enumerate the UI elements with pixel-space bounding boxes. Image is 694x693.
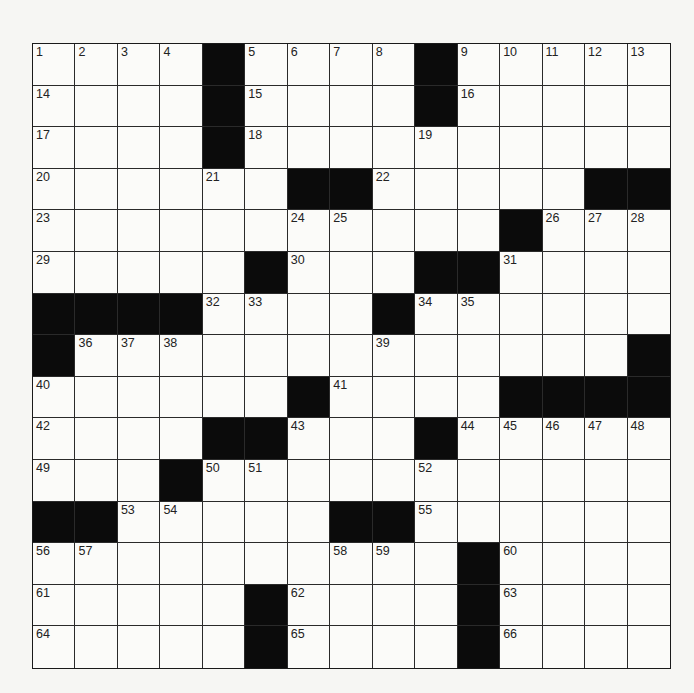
grid-cell[interactable]: 63 — [500, 585, 542, 627]
grid-cell[interactable]: 25 — [330, 210, 372, 252]
grid-cell[interactable]: 23 — [33, 210, 75, 252]
grid-cell[interactable]: 13 — [628, 44, 670, 86]
grid-cell[interactable] — [543, 626, 585, 668]
grid-cell[interactable] — [500, 169, 542, 211]
grid-cell[interactable] — [543, 127, 585, 169]
grid-cell[interactable] — [373, 210, 415, 252]
grid-cell[interactable] — [75, 127, 117, 169]
grid-cell[interactable] — [203, 585, 245, 627]
grid-cell[interactable]: 1 — [33, 44, 75, 86]
grid-cell[interactable] — [245, 210, 287, 252]
grid-cell[interactable] — [118, 585, 160, 627]
grid-cell[interactable]: 10 — [500, 44, 542, 86]
grid-cell[interactable] — [160, 585, 202, 627]
grid-cell[interactable]: 50 — [203, 460, 245, 502]
grid-cell[interactable] — [628, 86, 670, 128]
grid-cell[interactable] — [330, 294, 372, 336]
grid-cell[interactable] — [118, 127, 160, 169]
grid-cell[interactable]: 8 — [373, 44, 415, 86]
grid-cell[interactable] — [203, 377, 245, 419]
grid-cell[interactable] — [373, 252, 415, 294]
grid-cell[interactable] — [288, 335, 330, 377]
grid-cell[interactable] — [543, 294, 585, 336]
grid-cell[interactable]: 44 — [458, 418, 500, 460]
grid-cell[interactable] — [500, 294, 542, 336]
grid-cell[interactable] — [160, 169, 202, 211]
grid-cell[interactable]: 49 — [33, 460, 75, 502]
grid-cell[interactable] — [373, 626, 415, 668]
grid-cell[interactable] — [585, 252, 627, 294]
grid-cell[interactable] — [373, 127, 415, 169]
grid-cell[interactable] — [543, 502, 585, 544]
grid-cell[interactable] — [330, 252, 372, 294]
grid-cell[interactable]: 65 — [288, 626, 330, 668]
grid-cell[interactable] — [543, 252, 585, 294]
grid-cell[interactable]: 66 — [500, 626, 542, 668]
grid-cell[interactable] — [160, 86, 202, 128]
grid-cell[interactable] — [75, 252, 117, 294]
grid-cell[interactable] — [458, 127, 500, 169]
grid-cell[interactable] — [203, 543, 245, 585]
grid-cell[interactable] — [628, 543, 670, 585]
grid-cell[interactable] — [245, 169, 287, 211]
grid-cell[interactable] — [203, 626, 245, 668]
grid-cell[interactable]: 3 — [118, 44, 160, 86]
grid-cell[interactable]: 61 — [33, 585, 75, 627]
grid-cell[interactable] — [585, 543, 627, 585]
grid-cell[interactable] — [118, 377, 160, 419]
grid-cell[interactable]: 59 — [373, 543, 415, 585]
grid-cell[interactable] — [288, 294, 330, 336]
grid-cell[interactable] — [458, 169, 500, 211]
grid-cell[interactable] — [75, 210, 117, 252]
grid-cell[interactable]: 22 — [373, 169, 415, 211]
grid-cell[interactable] — [373, 86, 415, 128]
grid-cell[interactable]: 58 — [330, 543, 372, 585]
grid-cell[interactable] — [585, 460, 627, 502]
grid-cell[interactable]: 12 — [585, 44, 627, 86]
grid-cell[interactable]: 51 — [245, 460, 287, 502]
grid-cell[interactable]: 17 — [33, 127, 75, 169]
grid-cell[interactable] — [160, 210, 202, 252]
grid-cell[interactable] — [585, 502, 627, 544]
grid-cell[interactable]: 29 — [33, 252, 75, 294]
grid-cell[interactable] — [585, 585, 627, 627]
grid-cell[interactable] — [75, 626, 117, 668]
grid-cell[interactable] — [628, 294, 670, 336]
grid-cell[interactable] — [543, 585, 585, 627]
grid-cell[interactable]: 52 — [415, 460, 457, 502]
grid-cell[interactable] — [330, 418, 372, 460]
grid-cell[interactable] — [500, 502, 542, 544]
grid-cell[interactable] — [628, 127, 670, 169]
grid-cell[interactable] — [543, 543, 585, 585]
grid-cell[interactable]: 30 — [288, 252, 330, 294]
grid-cell[interactable]: 2 — [75, 44, 117, 86]
grid-cell[interactable]: 40 — [33, 377, 75, 419]
grid-cell[interactable] — [500, 335, 542, 377]
grid-cell[interactable]: 24 — [288, 210, 330, 252]
grid-cell[interactable] — [245, 543, 287, 585]
grid-cell[interactable]: 64 — [33, 626, 75, 668]
grid-cell[interactable]: 9 — [458, 44, 500, 86]
grid-cell[interactable] — [160, 418, 202, 460]
grid-cell[interactable] — [330, 626, 372, 668]
grid-cell[interactable] — [288, 502, 330, 544]
grid-cell[interactable] — [330, 86, 372, 128]
grid-cell[interactable] — [458, 502, 500, 544]
grid-cell[interactable]: 55 — [415, 502, 457, 544]
grid-cell[interactable] — [203, 502, 245, 544]
grid-cell[interactable] — [330, 585, 372, 627]
grid-cell[interactable] — [75, 585, 117, 627]
grid-cell[interactable] — [330, 335, 372, 377]
grid-cell[interactable] — [288, 460, 330, 502]
grid-cell[interactable]: 53 — [118, 502, 160, 544]
grid-cell[interactable] — [543, 169, 585, 211]
grid-cell[interactable]: 35 — [458, 294, 500, 336]
grid-cell[interactable] — [415, 543, 457, 585]
grid-cell[interactable] — [543, 460, 585, 502]
grid-cell[interactable]: 28 — [628, 210, 670, 252]
grid-cell[interactable] — [330, 460, 372, 502]
grid-cell[interactable] — [160, 127, 202, 169]
grid-cell[interactable]: 26 — [543, 210, 585, 252]
grid-cell[interactable]: 47 — [585, 418, 627, 460]
grid-cell[interactable]: 5 — [245, 44, 287, 86]
